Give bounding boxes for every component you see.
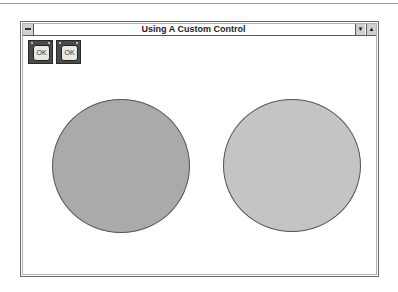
right-circle <box>223 99 361 232</box>
system-menu-button[interactable] <box>23 24 34 35</box>
maximize-button[interactable]: ▲ <box>366 24 376 35</box>
client-area: OK OK <box>23 36 376 274</box>
corner-dot-icon <box>31 42 33 44</box>
ok-button-face: OK <box>33 45 50 61</box>
corner-dot-icon <box>76 42 78 44</box>
custom-ok-button-2[interactable]: OK <box>56 40 81 64</box>
window-frame: Using A Custom Control ▼ ▲ OK OK <box>22 23 377 275</box>
minimize-icon: ▼ <box>358 26 364 32</box>
app-window: Using A Custom Control ▼ ▲ OK OK <box>20 21 379 277</box>
minimize-button[interactable]: ▼ <box>355 24 365 35</box>
custom-ok-button-1[interactable]: OK <box>28 40 53 64</box>
top-divider <box>0 3 398 4</box>
window-title: Using A Custom Control <box>35 24 352 35</box>
corner-dot-icon <box>48 42 50 44</box>
system-menu-icon <box>25 28 31 30</box>
ok-button-face: OK <box>61 45 78 61</box>
title-bar[interactable]: Using A Custom Control ▼ ▲ <box>23 24 376 36</box>
maximize-icon: ▲ <box>369 26 375 32</box>
corner-dot-icon <box>59 42 61 44</box>
left-circle <box>52 99 190 233</box>
